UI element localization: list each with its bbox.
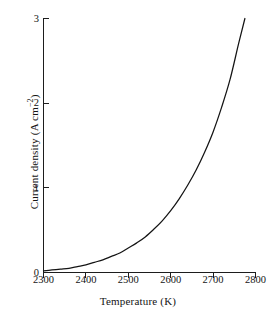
y-axis-title: Current density (A cm−2) (26, 57, 40, 247)
data-curve-thermionic (44, 19, 245, 271)
plot-area (0, 0, 276, 319)
y-axis-title-tail: ) (28, 94, 40, 98)
x-tick-label-2700: 2700 (203, 275, 224, 286)
x-tick-label-2400: 2400 (75, 275, 96, 286)
x-axis-title: Temperature (K) (0, 295, 276, 307)
y-tick-marks (44, 19, 49, 273)
x-tick-label-2800: 2800 (245, 275, 266, 286)
y-tick-label-3: 3 (26, 13, 39, 24)
y-axis-title-exponent: −2 (26, 98, 35, 107)
x-tick-label-2500: 2500 (118, 275, 139, 286)
x-tick-label-2600: 2600 (160, 275, 181, 286)
figure-container: 2300 2400 2500 2600 2700 2800 0 1 2 3 Te… (0, 0, 276, 319)
y-tick-label-0: 0 (26, 267, 39, 278)
y-axis-title-main: Current density (A cm (28, 107, 40, 209)
